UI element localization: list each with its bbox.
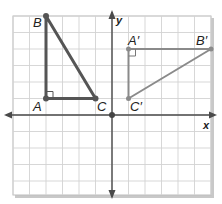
label-c: C bbox=[97, 99, 107, 114]
vertex-point bbox=[43, 13, 49, 19]
vertex-point bbox=[209, 47, 214, 52]
coordinate-plane-diagram: x y B A C A′ B′ C′ bbox=[0, 0, 222, 204]
vertex-point bbox=[43, 96, 49, 102]
x-axis-left-arrow-icon bbox=[4, 112, 12, 119]
label-c-prime: C′ bbox=[130, 99, 142, 114]
x-axis-label: x bbox=[202, 119, 210, 131]
y-axis-up-arrow-icon bbox=[109, 10, 116, 19]
y-axis-label: y bbox=[115, 14, 123, 26]
origin-point bbox=[109, 112, 115, 118]
label-a-prime: A′ bbox=[127, 33, 140, 48]
label-a: A bbox=[32, 99, 42, 114]
label-b: B bbox=[33, 15, 42, 30]
label-b-prime: B′ bbox=[196, 33, 208, 48]
